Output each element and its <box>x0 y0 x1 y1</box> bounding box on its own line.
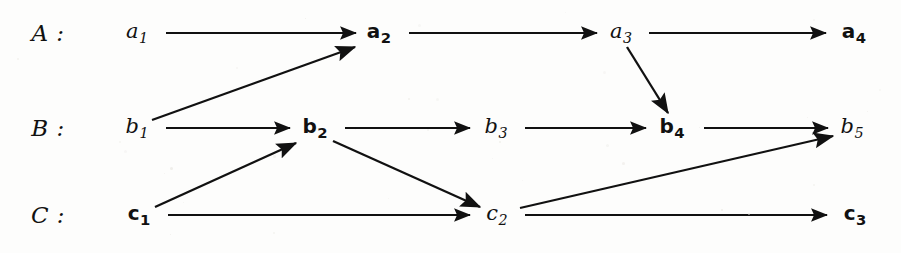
node-subscript: 1 <box>139 125 148 141</box>
node-subscript: 3 <box>498 125 507 141</box>
paper-speck <box>807 117 808 118</box>
paper-speck <box>273 232 275 234</box>
node-base: b <box>659 114 673 138</box>
edge-c2-b5 <box>520 136 833 208</box>
row-label-b: B : <box>31 117 64 140</box>
node-b5: b5 <box>840 116 863 140</box>
paper-speck <box>183 202 184 203</box>
paper-speck <box>603 71 606 74</box>
paper-speck <box>305 18 306 19</box>
node-a3: a3 <box>610 21 632 45</box>
paper-speck <box>119 141 121 143</box>
node-subscript: 2 <box>381 29 391 46</box>
node-base: c <box>128 201 140 225</box>
node-base: a <box>126 19 139 43</box>
node-subscript: 3 <box>856 211 866 228</box>
paper-speck <box>492 158 493 159</box>
node-a4: a4 <box>842 21 866 46</box>
paper-speck <box>124 150 127 153</box>
node-base: c <box>486 201 498 225</box>
paper-speck <box>236 67 238 69</box>
row-label-c: C : <box>31 204 65 227</box>
paper-speck <box>721 209 723 211</box>
paper-speck <box>867 111 868 112</box>
paper-speck <box>408 98 410 100</box>
edge-c1-b2 <box>155 143 296 207</box>
paper-speck <box>418 24 421 27</box>
paper-speck <box>699 127 700 128</box>
diagram-canvas: A :B :C : a1a2a3a4b1b2b3b4b5c1c2c3 <box>0 0 901 253</box>
paper-speck <box>436 98 439 101</box>
edge-b1-a2 <box>152 47 355 120</box>
row-label-a: A : <box>31 22 64 45</box>
paper-speck <box>879 89 881 91</box>
paper-speck <box>164 173 165 174</box>
node-base: c <box>844 201 856 225</box>
paper-speck <box>170 234 171 235</box>
edge-a3-b4 <box>627 47 668 113</box>
node-base: b <box>840 114 853 138</box>
node-a2: a2 <box>367 21 391 46</box>
node-b2: b2 <box>302 116 327 141</box>
paper-speck <box>522 180 523 181</box>
node-b1: b1 <box>125 116 148 140</box>
edge-b2-c2 <box>333 141 480 207</box>
node-b3: b3 <box>484 116 507 140</box>
node-base: a <box>842 19 856 43</box>
node-subscript: 2 <box>317 124 327 141</box>
node-subscript: 1 <box>140 211 150 228</box>
node-subscript: 4 <box>856 29 866 46</box>
node-base: a <box>610 19 623 43</box>
paper-speck <box>388 198 389 199</box>
paper-speck <box>355 129 356 130</box>
paper-speck <box>565 12 566 13</box>
paper-speck <box>533 122 534 123</box>
node-subscript: 1 <box>139 30 148 46</box>
node-base: b <box>302 114 316 138</box>
paper-speck <box>17 58 19 60</box>
node-base: a <box>367 19 381 43</box>
paper-speck <box>170 167 173 170</box>
paper-speck <box>499 141 501 143</box>
node-subscript: 2 <box>499 212 508 228</box>
node-base: b <box>125 114 138 138</box>
paper-speck <box>273 155 276 158</box>
paper-speck <box>606 144 609 147</box>
paper-speck <box>813 19 815 21</box>
node-subscript: 3 <box>623 30 632 46</box>
node-c2: c2 <box>486 203 507 227</box>
paper-speck <box>427 181 428 182</box>
paper-speck <box>748 213 750 215</box>
node-b4: b4 <box>659 116 684 141</box>
node-subscript: 5 <box>854 125 863 141</box>
paper-speck <box>813 184 815 186</box>
node-subscript: 4 <box>674 124 684 141</box>
paper-speck <box>622 162 625 165</box>
node-c1: c1 <box>128 203 151 228</box>
node-base: b <box>484 114 497 138</box>
node-c3: c3 <box>844 203 867 228</box>
node-a1: a1 <box>126 21 148 45</box>
paper-speck <box>427 129 429 131</box>
